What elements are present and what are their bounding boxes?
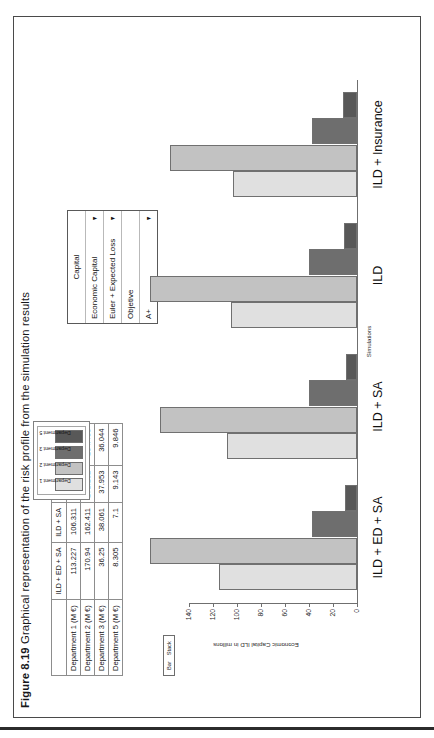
- table-row-label: Department 2 (M €): [81, 600, 95, 676]
- legend-items: Department 1Department 2Department 3Depa…: [37, 426, 86, 495]
- y-axis-tick-label: 0: [353, 609, 360, 635]
- bar: [150, 538, 357, 564]
- bar: [160, 407, 357, 433]
- bar: [227, 433, 357, 459]
- figure-page: Figure 8.19 Graphical representation of …: [0, 0, 434, 738]
- y-axis-tick-label: 140: [185, 609, 192, 635]
- figure-caption-text: Graphical representation of the risk pro…: [19, 292, 31, 644]
- table-cell: 162.411: [81, 503, 95, 543]
- panel-label-euler-expected-loss: Euler + Expected Loss: [108, 239, 117, 319]
- table-col-header-blank: [52, 600, 67, 676]
- figure-number: Figure 8.19: [19, 647, 31, 708]
- legend-item: Department 2: [41, 462, 83, 475]
- y-axis-tick-label: 120: [209, 609, 216, 635]
- table-row: Department 3 (M €)36.2538.06137.95336.04…: [95, 423, 109, 675]
- table-row-label: Department 5 (M €): [109, 600, 123, 676]
- y-axis-tick-mark: [237, 603, 238, 607]
- y-axis-tick-label: 20: [329, 609, 336, 635]
- bar: [309, 380, 357, 406]
- panel-row-objetive: Objetive: [122, 211, 140, 323]
- bar-group: ILD + SA: [189, 341, 357, 472]
- bar: [346, 354, 357, 380]
- table-row-label: Department 1 (M €): [67, 600, 81, 676]
- legend-item: Department 1: [41, 478, 83, 491]
- y-axis-tick-mark: [213, 603, 214, 607]
- chevron-down-icon[interactable]: ▼: [145, 216, 152, 222]
- table-cell: 106.311: [67, 503, 81, 543]
- x-axis-category-label: ILD: [371, 216, 385, 336]
- table-col-header: ILD + ED + SA: [52, 542, 67, 600]
- bar-group: ILD + ED + SA: [189, 472, 357, 603]
- bar: [219, 564, 357, 590]
- chart-type-toolbar[interactable]: Bar Stack: [163, 635, 175, 676]
- y-axis-tick-label: 60: [281, 609, 288, 635]
- table-cell: 170.94: [81, 542, 95, 600]
- toolbar-item-bar[interactable]: Bar: [166, 661, 172, 670]
- y-axis-label: Economic Capital ILD in millons: [181, 642, 331, 649]
- y-axis-tick-mark: [285, 603, 286, 607]
- panel-label-economic-capital: Economic Capital: [90, 257, 99, 319]
- chart-legend: Department 1Department 2Department 3Depa…: [33, 421, 90, 500]
- table-cell: 113.227: [67, 542, 81, 600]
- table-row-label: Department 3 (M €): [95, 600, 109, 676]
- table-cell: 38.061: [95, 503, 109, 543]
- figure-caption: Figure 8.19 Graphical representation of …: [19, 68, 31, 708]
- chevron-down-icon[interactable]: ▼: [91, 216, 98, 222]
- bar: [231, 302, 357, 328]
- bar: [344, 223, 357, 249]
- x-axis-category-label: ILD + Insurance: [371, 85, 385, 205]
- y-axis-tick-label: 40: [305, 609, 312, 635]
- bar: [233, 171, 357, 197]
- bar-group: ILD: [189, 210, 357, 341]
- bar: [312, 511, 358, 537]
- table-col-header: ILD + SA: [52, 503, 67, 543]
- bar-group: ILD + Insurance: [189, 79, 357, 210]
- y-axis-tick-mark: [357, 603, 358, 607]
- table-cell: 7.1: [109, 503, 123, 543]
- plot-area: Economic Capital ILD in millons Simulati…: [189, 80, 358, 604]
- legend-item: Department 3: [41, 446, 83, 459]
- y-axis-tick-mark: [309, 603, 310, 607]
- bar: [170, 145, 357, 171]
- panel-label-rating: A+: [144, 309, 153, 319]
- y-axis-tick-mark: [261, 603, 262, 607]
- bar: [345, 485, 357, 511]
- panel-row-euler-expected-loss[interactable]: Euler + Expected Loss ▼: [104, 211, 122, 323]
- bar: [309, 249, 357, 275]
- table-cell: 36.044: [95, 423, 109, 465]
- y-axis-tick-label: 100: [233, 609, 240, 635]
- panel-title: Capital: [68, 211, 86, 323]
- y-axis-tick-mark: [333, 603, 334, 607]
- toolbar-item-stack[interactable]: Stack: [166, 641, 172, 655]
- panel-row-economic-capital[interactable]: Economic Capital ▼: [86, 211, 104, 323]
- table-cell: 9.143: [109, 465, 123, 502]
- table-row: Department 5 (M €)8.3057.19.1439.846: [109, 423, 123, 675]
- table-cell: 37.953: [95, 465, 109, 502]
- table-cell: 36.25: [95, 542, 109, 600]
- bar: [312, 118, 357, 144]
- bar: [343, 92, 357, 118]
- y-axis-tick-mark: [189, 603, 190, 607]
- figure-canvas: Figure 8.19 Graphical representation of …: [13, 16, 419, 716]
- y-axis-tick-label: 80: [257, 609, 264, 635]
- x-axis-category-label: ILD + ED + SA: [371, 478, 385, 598]
- table-cell: 8.305: [109, 542, 123, 600]
- legend-item: Department 5: [41, 430, 83, 443]
- capital-settings-panel[interactable]: Capital Economic Capital ▼ Euler + Expec…: [67, 210, 158, 324]
- bar-chart: Economic Capital ILD in millons Simulati…: [189, 70, 385, 658]
- page-bottom-rule: [0, 727, 434, 730]
- chevron-down-icon[interactable]: ▼: [109, 216, 116, 222]
- panel-label-objetive: Objetive: [126, 290, 135, 319]
- x-axis-category-label: ILD + SA: [371, 347, 385, 467]
- bar: [150, 276, 357, 302]
- panel-row-rating[interactable]: A+ ▼: [140, 211, 157, 323]
- table-cell: 9.846: [109, 423, 123, 465]
